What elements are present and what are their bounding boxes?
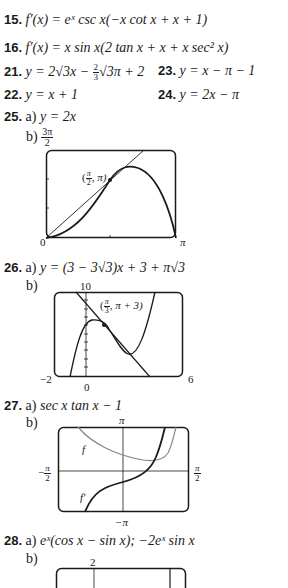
part-a-text: eˣ(cos x − sin x); −2eˣ sin x <box>40 533 195 548</box>
answer-number: 28. <box>4 533 22 548</box>
part-a-label: a) <box>26 260 37 275</box>
answer-number: 16. <box>4 40 22 55</box>
part-a-text: y = 2x <box>40 109 76 124</box>
y-max-label: 2 <box>90 556 96 568</box>
part-b-label: b) <box>26 551 38 567</box>
x-min-label: 0 <box>40 236 46 248</box>
answer-text: y = x − π − 1 <box>180 63 256 78</box>
curve-fprime-label: f′ <box>80 491 85 503</box>
point-label: (π2, π) <box>82 170 106 187</box>
answer-number: 15. <box>4 12 22 27</box>
y-max-label: 10 <box>80 280 91 292</box>
denominator: 2 <box>41 138 53 148</box>
y-max-label: π <box>119 414 125 426</box>
fraction: π2 <box>194 464 201 483</box>
answer-25-b: b) 3π2 <box>26 127 53 148</box>
x-max-label: π <box>180 236 186 248</box>
answer-number: 21. <box>4 64 22 79</box>
part-b-label: b) <box>26 129 38 144</box>
point-rest: , π + 3) <box>110 299 143 311</box>
part-a-label: a) <box>26 533 37 548</box>
answer-21: 21. y = 2√3x − 23√3π + 2 <box>4 63 144 82</box>
part-a-label: a) <box>26 398 37 413</box>
part-a-text: sec x tan x − 1 <box>40 398 122 413</box>
answer-text: f′(x) = x sin x(2 tan x + x + x sec² x) <box>26 40 229 55</box>
part-b-label: b) <box>26 278 38 294</box>
answer-number: 24. <box>158 87 176 102</box>
x-max-label: π2 <box>194 464 201 483</box>
answer-25: 25. a) y = 2x <box>4 109 76 125</box>
answer-number: 22. <box>4 87 22 102</box>
answer-text: y = 2√3x − <box>26 64 93 79</box>
answer-text: √3π + 2 <box>99 64 144 79</box>
answer-number: 26. <box>4 260 22 275</box>
x-max-label: 6 <box>188 373 194 385</box>
part-b-label: b) <box>26 415 38 431</box>
point-rest: , π) <box>92 171 107 183</box>
part-a-label: a) <box>26 109 37 124</box>
answer-27: 27. a) sec x tan x − 1 <box>4 398 122 414</box>
answer-26: 26. a) y = (3 − 3√3)x + 3 + π√3 <box>4 260 185 276</box>
part-a-text: y = (3 − 3√3)x + 3 + π√3 <box>40 260 185 275</box>
graph-27 <box>58 427 189 512</box>
point-label: (π3, π + 3) <box>100 298 143 315</box>
x-min-label: −π2 <box>38 464 51 483</box>
answer-23: 23. y = x − π − 1 <box>158 63 255 79</box>
answer-15: 15. f′(x) = eˣ csc x(−x cot x + x + 1) <box>4 12 207 28</box>
answer-number: 23. <box>158 63 176 78</box>
answer-24: 24. y = 2x − π <box>158 87 239 103</box>
answer-text: y = x + 1 <box>26 87 78 102</box>
answer-16: 16. f′(x) = x sin x(2 tan x + x + x sec²… <box>4 40 228 56</box>
fraction: 3π2 <box>41 127 53 148</box>
answer-22: 22. y = x + 1 <box>4 87 78 103</box>
answer-number: 25. <box>4 109 22 124</box>
curve-f-label: f <box>82 443 85 455</box>
graph-25 <box>46 150 176 238</box>
answer-number: 27. <box>4 398 22 413</box>
denominator: 2 <box>44 474 51 483</box>
answer-text: f′(x) = eˣ csc x(−x cot x + x + 1) <box>26 12 208 27</box>
denominator: 2 <box>194 474 201 483</box>
graph-28 <box>56 568 186 588</box>
answer-28: 28. a) eˣ(cos x − sin x); −2eˣ sin x <box>4 533 195 549</box>
y-min-label: −π <box>115 516 128 528</box>
origin-label: 0 <box>84 381 90 393</box>
fraction: π2 <box>44 464 51 483</box>
answer-text: y = 2x − π <box>180 87 239 102</box>
x-min-label: −2 <box>40 373 52 385</box>
